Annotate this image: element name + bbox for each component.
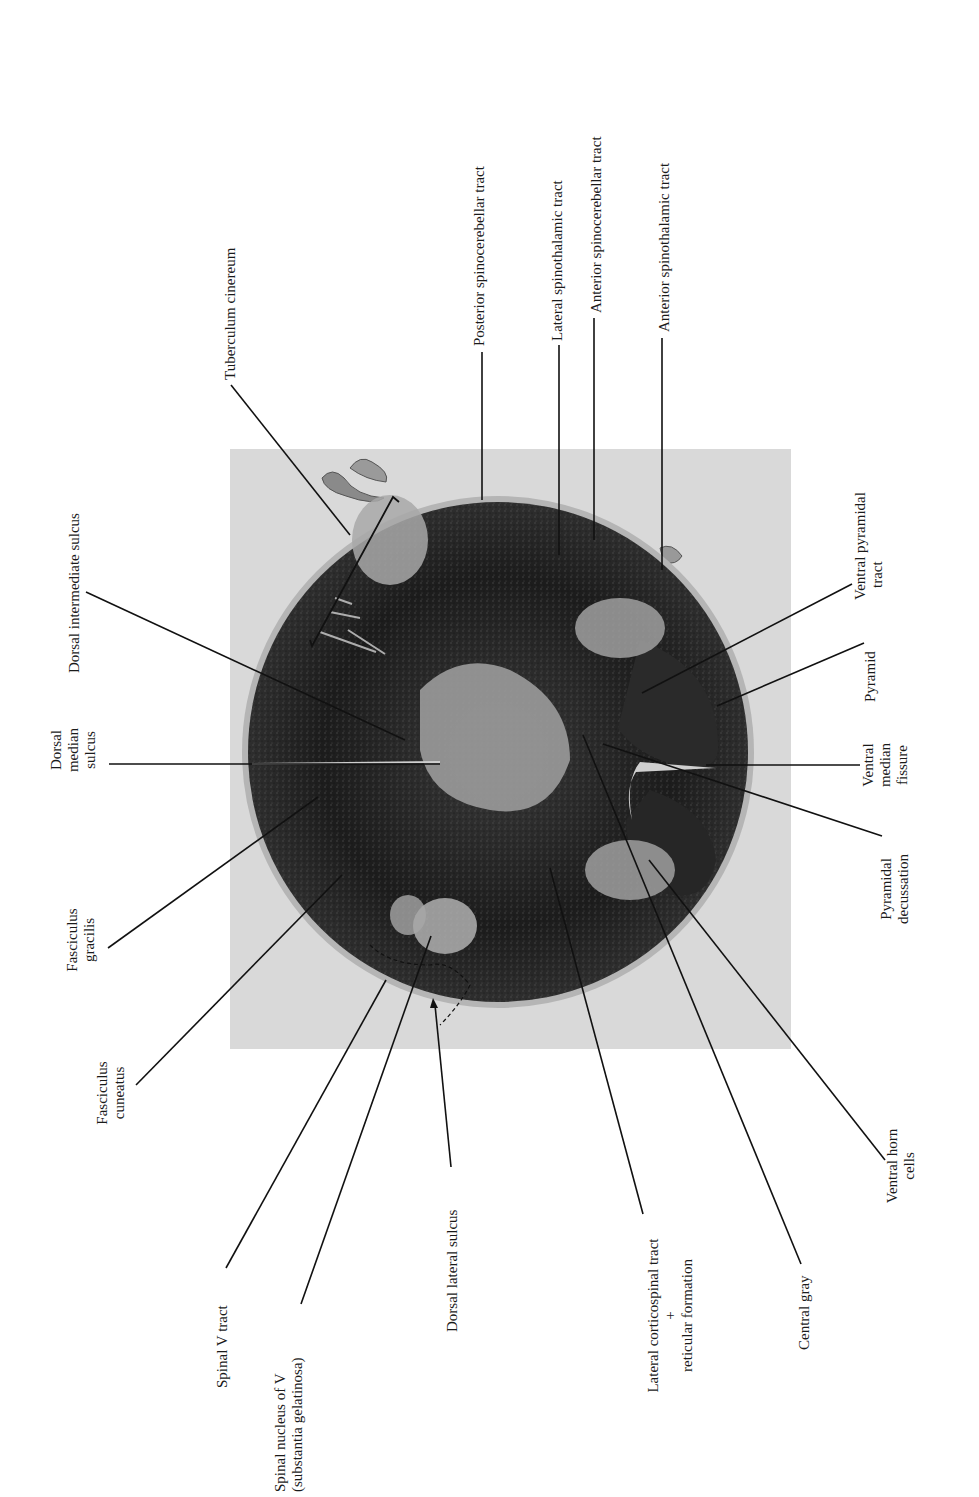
label-tuberculum-cinereum: Tuberculum cinereum <box>222 248 239 380</box>
label-dorsal-median-sulcus: Dorsal median sulcus <box>48 710 99 790</box>
label-dorsal-intermediate-sulcus: Dorsal intermediate sulcus <box>66 513 83 673</box>
label-pyramidal-decussation: Pyramidal decussation <box>878 830 912 948</box>
label-spinal-v-tract: Spinal V tract <box>214 1305 231 1388</box>
label-posterior-spinocerebellar-tract: Posterior spinocerebellar tract <box>471 166 488 346</box>
label-fasciculus-cuneatus: Fasciculus cuneatus <box>94 1048 128 1138</box>
label-central-gray: Central gray <box>796 1275 813 1350</box>
label-ventral-horn-cells: Ventral horn cells <box>884 1116 918 1216</box>
medulla-cross-section-figure: Tuberculum cinereum Posterior spinocereb… <box>0 0 979 1497</box>
label-ventral-median-fissure: Ventral median fissure <box>860 725 911 805</box>
label-lateral-spinothalamic-tract: Lateral spinothalamic tract <box>549 180 566 341</box>
label-anterior-spinothalamic-tract: Anterior spinothalamic tract <box>656 163 673 332</box>
figure-graphics <box>0 0 979 1497</box>
label-fasciculus-gracilis: Fasciculus gracilis <box>64 895 98 985</box>
label-spinal-nucleus-of-v: Spinal nucleus of V (substantia gelatino… <box>272 1300 306 1492</box>
label-anterior-spinocerebellar-tract: Anterior spinocerebellar tract <box>588 136 605 313</box>
label-dorsal-lateral-sulcus: Dorsal lateral sulcus <box>444 1210 461 1332</box>
label-pyramid: Pyramid <box>862 651 879 702</box>
label-lateral-corticospinal-tract: Lateral corticospinal tract + reticular … <box>645 1213 696 1418</box>
label-ventral-pyramidal-tract: Ventral pyramidal tract <box>852 444 886 600</box>
